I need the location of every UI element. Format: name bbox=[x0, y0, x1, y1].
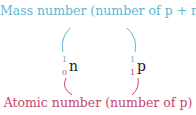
proton-atomic-number: 1 bbox=[130, 68, 135, 77]
atomic-number-label: Atomic number (number of p) bbox=[0, 95, 196, 110]
mass-arc-neutron bbox=[62, 28, 70, 52]
mass-arc-proton bbox=[127, 28, 136, 52]
neutron-atomic-number: 0 bbox=[62, 68, 67, 77]
proton-mass-number: 1 bbox=[130, 55, 135, 64]
neutron-symbol: n bbox=[69, 58, 78, 74]
atomic-arc-proton bbox=[132, 78, 138, 95]
proton-symbol: p bbox=[137, 58, 146, 74]
neutron-mass-number: 1 bbox=[62, 55, 67, 64]
atomic-arc-neutron bbox=[64, 78, 72, 95]
